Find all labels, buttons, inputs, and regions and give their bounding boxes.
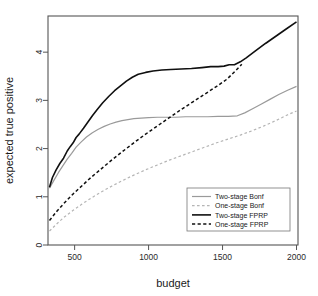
x-tick-label: 1500 [213, 252, 232, 262]
x-tick-label: 500 [68, 252, 82, 262]
y-tick-label: 2 [34, 146, 44, 151]
series-line-two-stage-bonf [49, 86, 296, 188]
x-tick-label: 2000 [287, 252, 306, 262]
chart-figure: 50010001500200001234budgetexpected true … [0, 0, 318, 296]
legend-label-one-stage-fprp: One-stage FPRP [215, 221, 269, 229]
y-tick-label: 3 [34, 98, 44, 103]
y-tick-label: 1 [34, 194, 44, 199]
y-axis-title: expected true positive [3, 77, 15, 184]
x-tick-label: 1000 [139, 252, 158, 262]
legend-label-two-stage-bonf: Two-stage Bonf [215, 193, 264, 201]
x-axis-title: budget [156, 277, 190, 289]
y-tick-label: 4 [34, 50, 44, 55]
expected-true-positive-line-chart: 50010001500200001234budgetexpected true … [0, 0, 318, 296]
y-tick-label: 0 [34, 242, 44, 247]
legend-label-one-stage-bonf: One-stage Bonf [215, 202, 264, 210]
legend-label-two-stage-fprp: Two-stage FPRP [215, 212, 268, 220]
